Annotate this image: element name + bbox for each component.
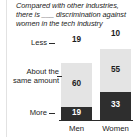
category-label-more: More (2, 109, 47, 118)
x-axis-baseline (59, 120, 133, 121)
plot-area: 19 60 19 10 55 33 Less About the same am… (0, 0, 137, 137)
bar-men-value-less: 19 (61, 36, 92, 44)
x-tick-label-men: Men (56, 124, 97, 133)
leader-line-less (49, 43, 55, 44)
bar-women-segment-less (100, 41, 131, 49)
leader-line-more (49, 113, 55, 114)
bar-women-value-less: 10 (100, 30, 131, 38)
bar-men-value-same: 60 (61, 80, 92, 88)
bar-men-segment-less (61, 48, 92, 63)
bar-women-value-same: 55 (100, 66, 131, 74)
x-tick-label-women: Women (95, 124, 136, 133)
category-label-less: Less (2, 39, 47, 48)
bar-men-value-more: 19 (61, 109, 92, 117)
chart-figure: Compared with other industries, there is… (0, 0, 137, 137)
bar-women-value-more: 33 (100, 101, 131, 109)
category-label-same-amount: About the same amount (0, 68, 59, 85)
leader-line-same-amount (57, 76, 62, 77)
